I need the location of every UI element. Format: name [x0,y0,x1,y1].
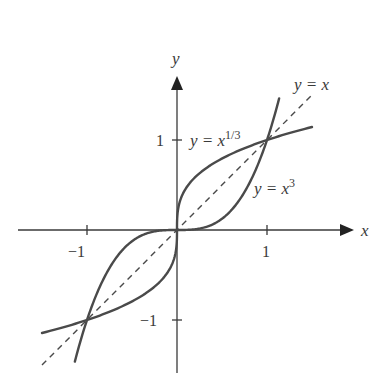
x-tick-label-neg1: −1 [68,243,85,260]
label-cube-base: y = x [252,179,290,198]
y-tick-label-1: 1 [156,132,164,149]
function-graph: x y −1 1 1 −1 y = x1/3 y = x3 y = x [0,0,384,392]
label-cube-root-exponent: 1/3 [225,128,240,142]
y-tick-label-neg1: −1 [140,312,157,329]
x-axis-arrow-icon [340,224,354,236]
label-identity: y = x [292,75,330,94]
label-cube-root: y = x1/3 [188,128,240,150]
y-axis-arrow-icon [171,76,183,90]
x-tick-label-1: 1 [262,243,270,260]
label-cube-root-base: y = x [188,131,226,150]
y-axis-label: y [170,49,180,68]
x-axis-label: x [360,221,369,240]
label-cube: y = x3 [252,176,295,198]
label-cube-exponent: 3 [289,176,295,190]
